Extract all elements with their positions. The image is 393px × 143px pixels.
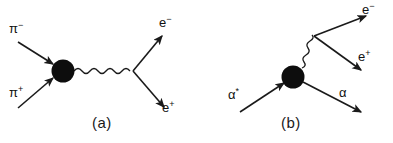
label-alpha-star: α* — [228, 88, 239, 101]
label-pi-minus-charge: − — [18, 20, 23, 30]
label-electron-a-charge: − — [166, 14, 171, 24]
electron-line-b — [314, 16, 366, 36]
label-pi-plus-symbol: π — [9, 85, 18, 100]
interaction-blob-a — [52, 60, 75, 83]
label-electron-b-charge: − — [369, 1, 374, 11]
label-positron-a: e+ — [162, 101, 175, 114]
electron-line-a — [133, 36, 162, 71]
interaction-blob-b — [282, 66, 305, 89]
positron-line-b — [314, 36, 361, 70]
pi-plus-line — [18, 78, 53, 108]
diagram-canvas — [0, 0, 393, 143]
label-electron-a: e− — [159, 16, 172, 29]
label-alpha-symbol: α — [339, 85, 347, 100]
photon-wavy-line-a — [74, 69, 130, 74]
feynman-diagram-figure: π− π+ e− e+ (a) α* α e− e+ (b) — [0, 0, 393, 143]
panel-a-group — [18, 36, 164, 108]
label-pi-minus: π− — [9, 22, 23, 35]
caption-panel-a: (a) — [92, 115, 112, 130]
panel-b-group — [240, 16, 366, 112]
positron-line-a — [133, 71, 164, 107]
photon-wavy-line-b — [302, 35, 313, 68]
label-positron-b-charge: + — [365, 48, 370, 58]
label-positron-b: e+ — [358, 50, 371, 63]
label-alpha-star-symbol: α — [228, 87, 236, 102]
label-pi-plus: π+ — [9, 86, 23, 99]
label-alpha-star-marker: * — [236, 86, 240, 96]
pi-minus-line — [18, 42, 53, 64]
label-positron-a-charge: + — [169, 99, 174, 109]
label-electron-b: e− — [362, 3, 375, 16]
caption-panel-b: (b) — [281, 115, 301, 130]
alpha-star-line — [240, 83, 284, 112]
label-alpha: α — [339, 86, 347, 99]
label-pi-plus-charge: + — [18, 84, 23, 94]
alpha-line — [303, 82, 361, 112]
label-pi-minus-symbol: π — [9, 21, 18, 36]
